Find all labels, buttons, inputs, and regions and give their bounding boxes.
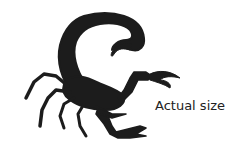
actual-size-caption: Actual size [155, 98, 225, 113]
scorpion-illustration [0, 0, 234, 149]
scorpion-silhouette-icon [0, 0, 234, 149]
